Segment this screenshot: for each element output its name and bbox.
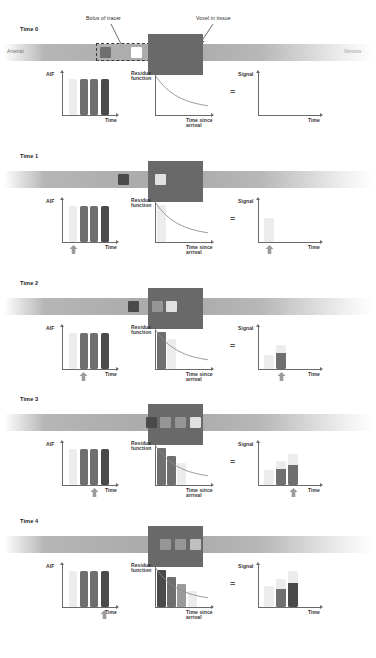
- aif-axis-label: AIF: [46, 564, 54, 570]
- signal-time-label: Time: [308, 610, 320, 616]
- tracer-square-voxel: [190, 539, 201, 550]
- equals-sign: =: [230, 579, 235, 589]
- signal-x-axis: [258, 607, 320, 608]
- signal-bar: [276, 579, 286, 608]
- timepoint-label: Time 4: [20, 518, 38, 524]
- signal-bar: [264, 586, 274, 607]
- aif-bar: [80, 571, 88, 607]
- residue-axis-label-line2: function: [131, 568, 152, 574]
- residue-function-curve: [155, 565, 211, 607]
- tracer-square-voxel: [175, 539, 186, 550]
- residue-x-axis: [155, 607, 211, 608]
- aif-bar: [90, 571, 98, 607]
- aif-time-marker-arrow: [100, 610, 109, 619]
- signal-y-axis: [258, 565, 259, 607]
- aif-x-axis: [62, 607, 116, 608]
- x-axis-arrow: [320, 605, 323, 609]
- signal-axis-label: Signal: [238, 564, 254, 570]
- aif-bar: [69, 571, 77, 607]
- aif-y-axis: [62, 565, 63, 607]
- signal-bar: [288, 571, 298, 607]
- aif-bar: [101, 571, 109, 607]
- y-axis-arrow: [256, 562, 260, 565]
- tracer-kinetics-figure: Bolus of tracer Voxel in tissue Time 0Ar…: [0, 0, 376, 658]
- residue-x-label-line2: arrival: [186, 615, 202, 621]
- timepoint-row: Time 4AIFTimeResiduefunctionTime sincear…: [0, 0, 376, 658]
- y-axis-arrow: [60, 562, 64, 565]
- tracer-square-voxel: [160, 539, 171, 550]
